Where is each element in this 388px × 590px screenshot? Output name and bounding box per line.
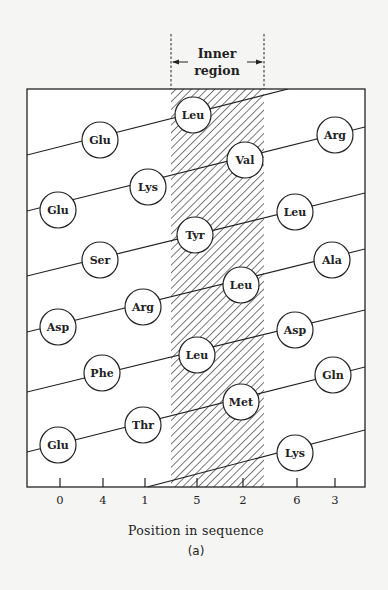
residue-label: Asp (46, 321, 70, 334)
residue-node: Glu (82, 122, 118, 158)
x-tick-label: 5 (193, 493, 200, 507)
arrow-left-icon (172, 60, 179, 65)
residue-node: Leu (223, 267, 259, 303)
residue-label: Leu (230, 279, 253, 292)
inner-region-label-line1: Inner (198, 46, 237, 61)
figure-caption: (a) (188, 544, 205, 558)
residue-node: Phe (84, 355, 120, 391)
residue-node: Lys (130, 169, 166, 205)
residue-node: Asp (40, 309, 76, 345)
residue-label: Ala (321, 254, 342, 267)
residue-label: Lys (285, 447, 305, 460)
residue-label: Lys (138, 181, 158, 194)
residue-label: Met (229, 396, 254, 409)
residue-label: Tyr (185, 229, 204, 242)
residue-node: Tyr (177, 217, 213, 253)
residue-node: Glu (40, 427, 76, 463)
residue-label: Glu (89, 134, 111, 147)
residue-node: Ser (82, 242, 118, 278)
residue-label: Ser (90, 254, 111, 267)
residue-label: Asp (283, 324, 307, 337)
x-tick-label: 2 (239, 493, 246, 507)
residue-node: Thr (125, 407, 161, 443)
residue-label: Gln (322, 369, 344, 382)
x-tick-label: 0 (56, 493, 63, 507)
residue-node: Val (227, 142, 263, 178)
x-tick-label: 3 (331, 493, 338, 507)
residue-label: Leu (182, 109, 205, 122)
residue-label: Val (235, 154, 255, 167)
residue-label: Arg (131, 301, 154, 314)
residue-label: Thr (132, 419, 154, 432)
residue-node: Asp (277, 312, 313, 348)
residue-node: Leu (179, 337, 215, 373)
residue-label: Glu (47, 204, 69, 217)
residue-node: Gln (315, 357, 351, 393)
inner-region-label-line2: region (194, 63, 239, 78)
residue-label: Leu (284, 206, 307, 219)
residue-label: Phe (90, 367, 113, 380)
helical-net-diagram: Inner region LeuGluArgValLysGluLeuTyrSer… (0, 0, 388, 590)
residue-node: Leu (175, 97, 211, 133)
residue-node: Ala (314, 242, 350, 278)
residue-label: Leu (186, 349, 209, 362)
x-tick-label: 4 (99, 493, 106, 507)
residue-node: Lys (277, 435, 313, 471)
residue-node: Arg (125, 289, 161, 325)
residue-node: Glu (40, 192, 76, 228)
residue-node: Met (223, 384, 259, 420)
residue-node: Leu (277, 194, 313, 230)
x-tick-label: 6 (293, 493, 300, 507)
residue-node: Arg (317, 117, 353, 153)
residue-label: Glu (47, 439, 69, 452)
arrow-right-icon (256, 60, 263, 65)
x-tick-label: 1 (141, 493, 148, 507)
x-axis-title: Position in sequence (128, 523, 264, 538)
residue-label: Arg (323, 129, 346, 142)
